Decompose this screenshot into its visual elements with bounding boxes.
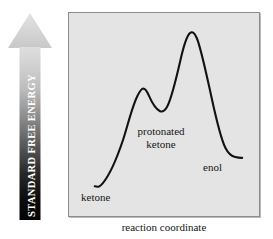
curve-label-protonated-ketone: protonated ketone xyxy=(121,125,201,150)
curve-label-ketone: ketone xyxy=(81,191,110,204)
curve-label-protonated-ketone-line2: ketone xyxy=(121,138,201,151)
energy-profile-curve xyxy=(69,13,259,216)
curve-label-protonated-ketone-line1: protonated xyxy=(121,125,201,138)
energy-arrow-shape xyxy=(4,10,56,222)
reaction-coordinate-figure: STANDARD FREE ENERGY ketone protonated k… xyxy=(0,0,273,239)
x-axis-label: reaction coordinate xyxy=(68,221,260,233)
plot-area: ketone protonated ketone enol xyxy=(68,12,260,217)
standard-free-energy-arrow: STANDARD FREE ENERGY xyxy=(4,10,56,222)
curve-label-enol: enol xyxy=(203,161,222,174)
arrow-shaft xyxy=(20,47,41,220)
